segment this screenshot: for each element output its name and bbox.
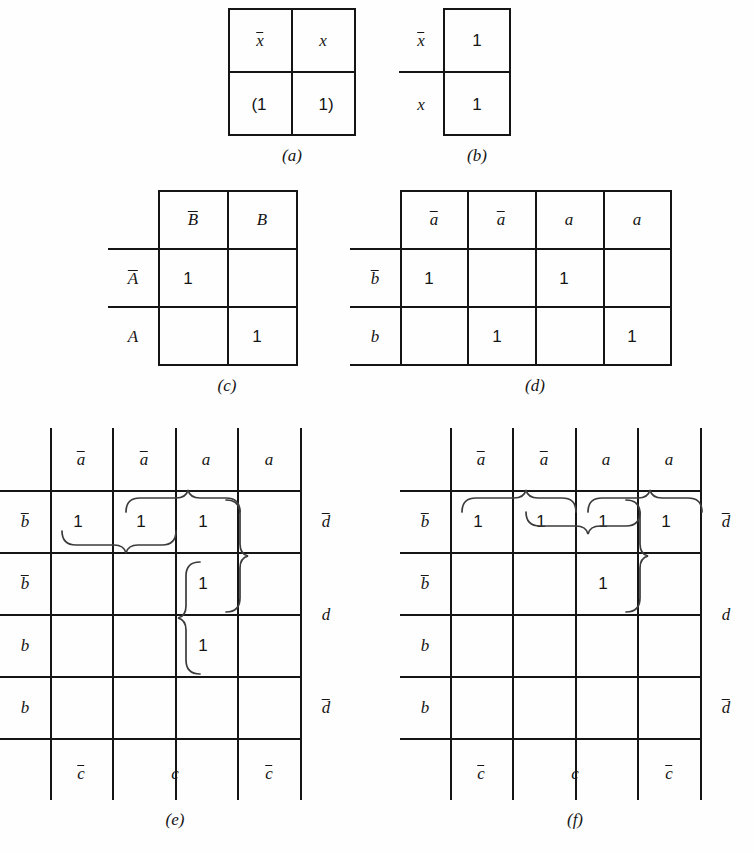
panel-a-vline-mid <box>291 8 293 136</box>
panel-e-brace-horizontal-2 <box>126 490 240 512</box>
panel-f-brace-horizontal-3 <box>588 490 702 512</box>
panel-b-row-header-0: x <box>417 31 425 49</box>
panel-f-col-header-1: a <box>540 450 549 468</box>
panel-d-vline-0 <box>400 190 402 366</box>
panel-f-hline-3 <box>400 676 702 678</box>
panel-f: a a a a b b b b d d d c c c 1 1 1 1 <box>450 428 702 828</box>
panel-e-braces <box>50 428 350 808</box>
panel-f-cell-0-1: 1 <box>536 513 545 530</box>
panel-b-cell-1-0: 1 <box>472 96 481 113</box>
panel-b-vline-left <box>443 8 445 136</box>
panel-f-cell-0-3: 1 <box>661 513 670 530</box>
panel-e-col-header-1: a <box>140 450 149 468</box>
panel-c-vline-left <box>158 190 160 366</box>
panel-b: x x 1 1 (b) <box>443 8 553 164</box>
panel-f-hline-1 <box>400 552 702 554</box>
panel-f-cell-0-0: 1 <box>473 513 482 530</box>
panel-e-hline-0 <box>0 490 302 492</box>
panel-d-col-header-1: a <box>497 210 506 228</box>
panel-f-cell-1-2: 1 <box>598 575 607 592</box>
panel-f-hline-2 <box>400 614 702 616</box>
panel-d-vline-4 <box>670 190 672 366</box>
panel-c-vline-mid <box>227 190 229 366</box>
panel-e-bottom-header-2: c <box>265 764 273 782</box>
panel-d-cell-0-0: 1 <box>424 270 433 287</box>
panel-f-hline-0 <box>400 490 702 492</box>
panel-d-caption: (d) <box>525 376 545 396</box>
panel-a-col-header-0: x <box>256 31 264 49</box>
panel-e-brace-vertical-2 <box>178 562 200 674</box>
panel-d-cell-1-3: 1 <box>627 328 636 345</box>
panel-d-hline-bottom <box>350 364 672 366</box>
panel-c-hline-header <box>108 248 298 250</box>
panel-b-hline-mid <box>399 71 511 73</box>
panel-e-cell-0-2: 1 <box>198 513 207 530</box>
panel-c-caption: (c) <box>218 376 237 396</box>
panel-d-cell-1-1: 1 <box>492 328 501 345</box>
panel-d-vline-2 <box>535 190 537 366</box>
panel-d-row-header-1: b <box>371 328 380 345</box>
panel-f-bottom-header-0: c <box>477 764 485 782</box>
panel-c-row-header-0: A <box>128 269 138 287</box>
panel-b-vline-right <box>509 8 511 136</box>
panel-e-col-header-2: a <box>202 451 211 468</box>
panel-e-bottom-header-1: c <box>171 765 179 782</box>
panel-d-vline-1 <box>467 190 469 366</box>
panel-e-row-header-3: b <box>21 699 30 716</box>
panel-a-col-header-1: x <box>319 32 327 49</box>
panel-a-vline-right <box>354 8 356 136</box>
panel-e-right-header-0: d <box>322 512 331 530</box>
panel-f-bottom-header-1: c <box>571 765 579 782</box>
panel-f-bottom-header-2: c <box>665 764 673 782</box>
panel-a-vline-left <box>228 8 230 136</box>
panel-c: B B A A 1 1 (c) <box>158 190 340 380</box>
panel-e-hline-2 <box>0 614 302 616</box>
panel-f-col-header-0: a <box>477 450 486 468</box>
panel-d-vline-3 <box>603 190 605 366</box>
panel-e-hline-3 <box>0 676 302 678</box>
panel-c-cell-0-0: 1 <box>183 270 192 287</box>
panel-e-row-header-1: b <box>21 574 30 592</box>
panel-b-caption: (b) <box>467 146 487 166</box>
panel-e-right-header-1: d <box>322 606 331 623</box>
panel-c-col-header-1: B <box>257 211 267 228</box>
panel-d-col-header-0: a <box>430 210 439 228</box>
panel-e-hline-4 <box>0 738 302 740</box>
panel-c-cell-1-1: 1 <box>252 328 261 345</box>
panel-e-bottom-header-0: c <box>77 764 85 782</box>
panel-e-row-header-2: b <box>21 637 30 654</box>
panel-a: x x (1 1) (a) <box>228 8 356 164</box>
panel-f-row-header-3: b <box>421 699 430 716</box>
panel-e-col-header-3: a <box>265 451 274 468</box>
panel-f-col-header-2: a <box>602 451 611 468</box>
panel-f-braces <box>450 428 750 808</box>
panel-e-col-header-0: a <box>77 450 86 468</box>
panel-b-hline-bottom <box>443 134 511 136</box>
panel-c-vline-right <box>296 190 298 366</box>
panel-f-caption: (f) <box>567 810 583 830</box>
panel-f-right-header-3: d <box>722 698 731 716</box>
panel-e-cell-2-2: 1 <box>198 637 207 654</box>
panel-e-hline-1 <box>0 552 302 554</box>
panel-d-cell-0-2: 1 <box>559 270 568 287</box>
panel-d: a a a a b b 1 1 1 1 (d) <box>400 190 690 380</box>
panel-d-hline-header <box>350 248 672 250</box>
panel-f-right-header-0: d <box>722 512 731 530</box>
panel-c-row-header-1: A <box>128 328 138 345</box>
panel-f-cell-0-2: 1 <box>598 513 607 530</box>
panel-d-col-header-3: a <box>633 211 642 228</box>
panel-e-cell-0-1: 1 <box>136 513 145 530</box>
panel-c-col-header-0: B <box>188 210 198 228</box>
panel-e-row-header-0: b <box>21 512 30 530</box>
panel-e-brace-horizontal-1 <box>62 531 176 553</box>
panel-f-hline-4 <box>400 738 702 740</box>
panel-f-row-header-0: b <box>421 512 430 530</box>
panel-f-col-header-3: a <box>665 451 674 468</box>
panel-b-row-header-1: x <box>417 96 425 113</box>
panel-f-row-header-1: b <box>421 574 430 592</box>
panel-a-cell-1-0: (1 <box>251 96 266 113</box>
karnaugh-map-figure: x x (1 1) (a) x x 1 1 (b) B B <box>0 0 754 853</box>
panel-a-cell-1-1: 1) <box>318 96 333 113</box>
panel-a-caption: (a) <box>282 146 302 166</box>
panel-f-row-header-2: b <box>421 637 430 654</box>
